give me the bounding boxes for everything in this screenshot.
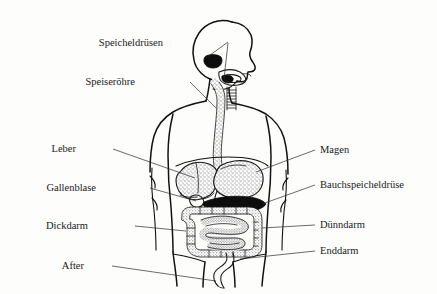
digestive-system-diagram: Speicheldrüsen Speiseröhre Leber Gallenb… <box>0 0 437 294</box>
esophagus-organ <box>211 82 225 166</box>
liver-organ <box>176 162 218 199</box>
rectum-organ <box>214 253 234 288</box>
label-dickdarm: Dickdarm <box>46 220 88 231</box>
label-magen: Magen <box>320 144 350 155</box>
labels-left-group: Speicheldrüsen Speiseröhre Leber Gallenb… <box>46 37 164 271</box>
label-bauchspeicheldruese: Bauchspeicheldrüse <box>320 179 404 190</box>
label-enddarm: Enddarm <box>320 245 359 256</box>
label-speiseroehre: Speiseröhre <box>85 76 135 87</box>
diagram-page: Speicheldrüsen Speiseröhre Leber Gallenb… <box>0 0 437 294</box>
label-leber: Leber <box>52 143 77 154</box>
leader-dickdarm <box>135 226 186 231</box>
leader-speicheldruesen-2 <box>224 43 228 79</box>
small-intestine-organ <box>201 216 248 250</box>
leader-duenndarm <box>262 225 315 228</box>
leader-magen <box>256 150 315 172</box>
labels-right-group: Magen Bauchspeicheldrüse Dünndarm Enddar… <box>320 144 404 256</box>
label-duenndarm: Dünndarm <box>320 219 365 230</box>
label-gallenblase: Gallenblase <box>46 182 96 193</box>
label-after: After <box>62 260 85 271</box>
label-speicheldruesen: Speicheldrüsen <box>99 37 164 48</box>
leader-after <box>112 266 216 281</box>
